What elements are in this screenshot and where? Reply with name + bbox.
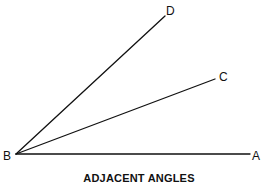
point-label-a: A [252, 149, 260, 163]
ray-bd [16, 16, 165, 154]
point-label-c: C [219, 70, 228, 84]
point-label-d: D [166, 4, 175, 18]
adjacent-angles-diagram: B A C D ADJACENT ANGLES [0, 0, 263, 187]
ray-bc [16, 79, 215, 154]
diagram-title: ADJACENT ANGLES [83, 172, 194, 184]
vertex-label-b: B [3, 149, 11, 163]
